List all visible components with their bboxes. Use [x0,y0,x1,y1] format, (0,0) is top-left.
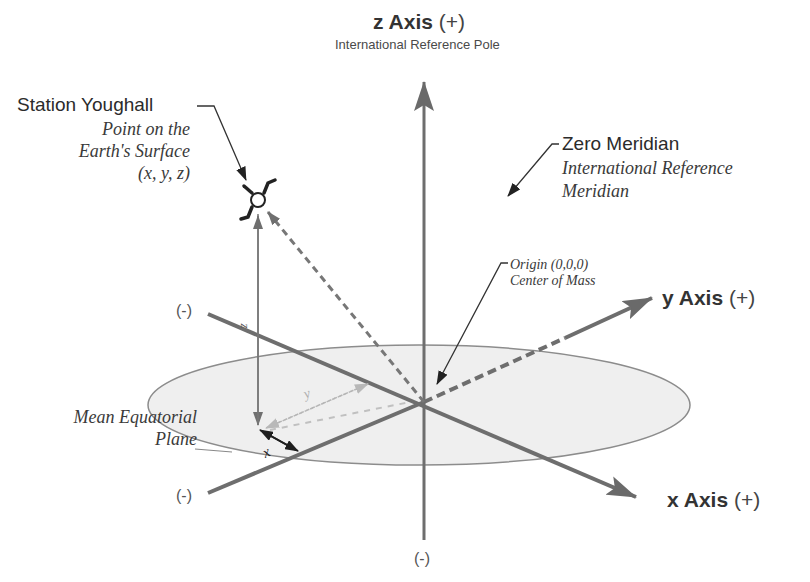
z-axis-title: z Axis [373,10,433,33]
zero-meridian-line2: Meridian [562,180,629,202]
x-axis-sign: (+) [734,488,760,511]
station-desc-3: (x, y, z) [138,162,190,184]
z-axis-label: z Axis (+) [373,10,465,34]
x-axis-title: x Axis [667,488,728,511]
station-desc-1: Point on the [102,118,190,140]
coordinate-diagram: z Axis (+) International Reference Pole … [0,0,810,582]
plane-line1: Mean Equatorial [74,406,198,428]
origin-line1: Origin (0,0,0) [510,256,588,273]
x-axis-label: x Axis (+) [667,488,760,512]
station-desc-2: Earth's Surface [79,140,190,162]
zero-meridian-line1: International Reference [562,157,733,179]
station-leader [197,106,246,180]
y-axis-title: y Axis [662,286,723,309]
y-axis-label: y Axis (+) [662,286,755,310]
plane-line2: Plane [155,428,197,450]
origin-line2: Center of Mass [510,272,596,289]
plane-leader [195,449,232,452]
y-axis-negative: (-) [176,487,192,505]
zero-meridian-leader [508,144,559,196]
y-axis-positive-line [565,298,652,338]
y-axis-sign: (+) [729,286,755,309]
x-axis-negative: (-) [176,302,192,320]
station-name: Station Youghall [17,94,153,116]
z-component-label: z [237,323,253,328]
zero-meridian-title: Zero Meridian [562,133,679,155]
z-axis-subtitle: International Reference Pole [335,37,500,52]
z-axis-negative: (-) [414,550,430,568]
z-axis-sign: (+) [439,10,465,33]
